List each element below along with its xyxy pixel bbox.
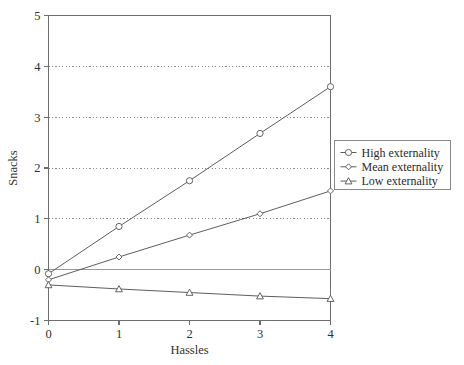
series-3 <box>45 282 334 302</box>
plot-frame <box>49 16 331 321</box>
data-point <box>116 254 122 260</box>
series-1 <box>45 84 333 277</box>
series-2 <box>46 188 334 283</box>
y-axis-title: Snacks <box>6 150 20 186</box>
x-axis: 01234 <box>45 321 334 341</box>
y-tick-label: 2 <box>34 161 40 175</box>
legend: High externalityMean externalityLow exte… <box>335 141 451 190</box>
y-tick-label: 5 <box>34 9 40 23</box>
data-point <box>116 223 122 229</box>
y-tick-label: -1 <box>30 314 40 328</box>
y-tick-label: 0 <box>34 263 40 277</box>
legend-label: High externality <box>362 146 440 160</box>
data-point <box>257 211 263 217</box>
y-tick-label: 4 <box>34 60 41 74</box>
x-tick-label: 4 <box>327 327 334 341</box>
x-tick-label: 1 <box>116 327 122 341</box>
legend-label: Low externality <box>362 174 438 188</box>
data-point <box>327 84 333 90</box>
data-point <box>45 271 51 277</box>
data-point <box>186 178 192 184</box>
legend-marker-circle <box>345 149 351 155</box>
data-point <box>328 188 334 194</box>
chart-container: -101234501234HasslesSnacksHigh externali… <box>0 0 464 365</box>
data-point <box>257 130 263 136</box>
y-tick-label: 1 <box>34 212 40 226</box>
data-point <box>187 232 193 238</box>
legend-label: Mean externality <box>362 160 444 174</box>
x-axis-title: Hassles <box>170 343 208 357</box>
gridlines <box>49 66 331 219</box>
x-tick-label: 2 <box>186 327 192 341</box>
line-chart: -101234501234HasslesSnacksHigh externali… <box>0 0 464 365</box>
x-tick-label: 3 <box>257 327 263 341</box>
y-tick-label: 3 <box>34 111 40 125</box>
x-tick-label: 0 <box>45 327 51 341</box>
